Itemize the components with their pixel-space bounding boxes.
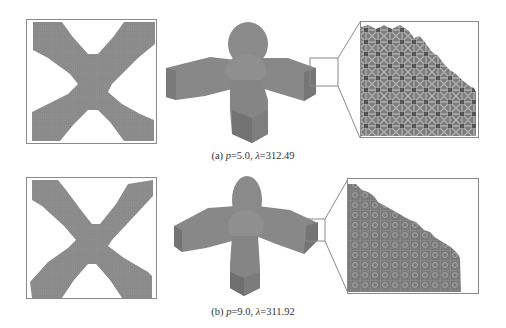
caption-label-b: (b)	[211, 306, 223, 317]
p-value-b: =9.0,	[231, 306, 253, 317]
caption-b: (b) p=9.0, λ=311.92	[0, 306, 506, 317]
lambda-value-b: =311.92	[260, 306, 294, 317]
lattice-detail-b	[0, 0, 506, 328]
